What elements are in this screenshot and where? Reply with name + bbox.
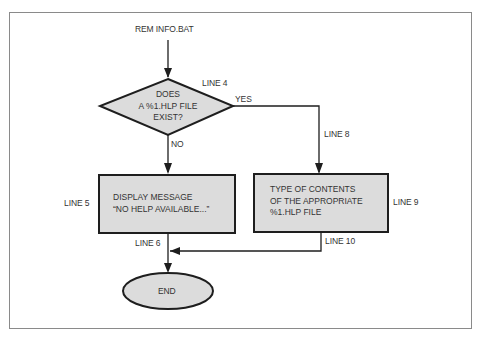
decision-text-line: EXIST? [118, 112, 218, 124]
line8-label: LINE 8 [324, 129, 349, 139]
box-text-line: “NO HELP AVAILABLE...” [113, 204, 209, 216]
decision-text-line: DOES [118, 89, 218, 101]
arrow-yes-branch [233, 106, 319, 172]
decision-text-line: A %1.HLP FILE [118, 101, 218, 113]
arrowhead-icon [170, 247, 180, 255]
line10-label: LINE 10 [325, 236, 355, 246]
arrowhead-icon [164, 163, 172, 174]
line4-label: LINE 4 [202, 78, 227, 88]
box-text-line: %1.HLP FILE [270, 207, 363, 219]
no-label: NO [171, 139, 184, 149]
arrowhead-icon [164, 263, 172, 273]
line5-label: LINE 5 [64, 198, 89, 208]
yes-label: YES [235, 94, 252, 104]
arrow-line10 [170, 232, 321, 251]
start-label: REM INFO.BAT [135, 24, 194, 34]
box-text-line: DISPLAY MESSAGE [113, 192, 209, 204]
type-contents-text: TYPE OF CONTENTS OF THE APPROPRIATE %1.H… [270, 184, 363, 219]
display-message-text: DISPLAY MESSAGE “NO HELP AVAILABLE...” [113, 192, 209, 215]
flowchart-graphics [0, 0, 485, 340]
arrowhead-icon [315, 163, 323, 174]
decision-text: DOES A %1.HLP FILE EXIST? [118, 89, 218, 124]
box-text-line: TYPE OF CONTENTS [270, 184, 363, 196]
line6-label: LINE 6 [135, 238, 160, 248]
end-label: END [158, 286, 176, 296]
arrowhead-icon [164, 68, 172, 78]
box-text-line: OF THE APPROPRIATE [270, 196, 363, 208]
line9-label: LINE 9 [393, 197, 418, 207]
